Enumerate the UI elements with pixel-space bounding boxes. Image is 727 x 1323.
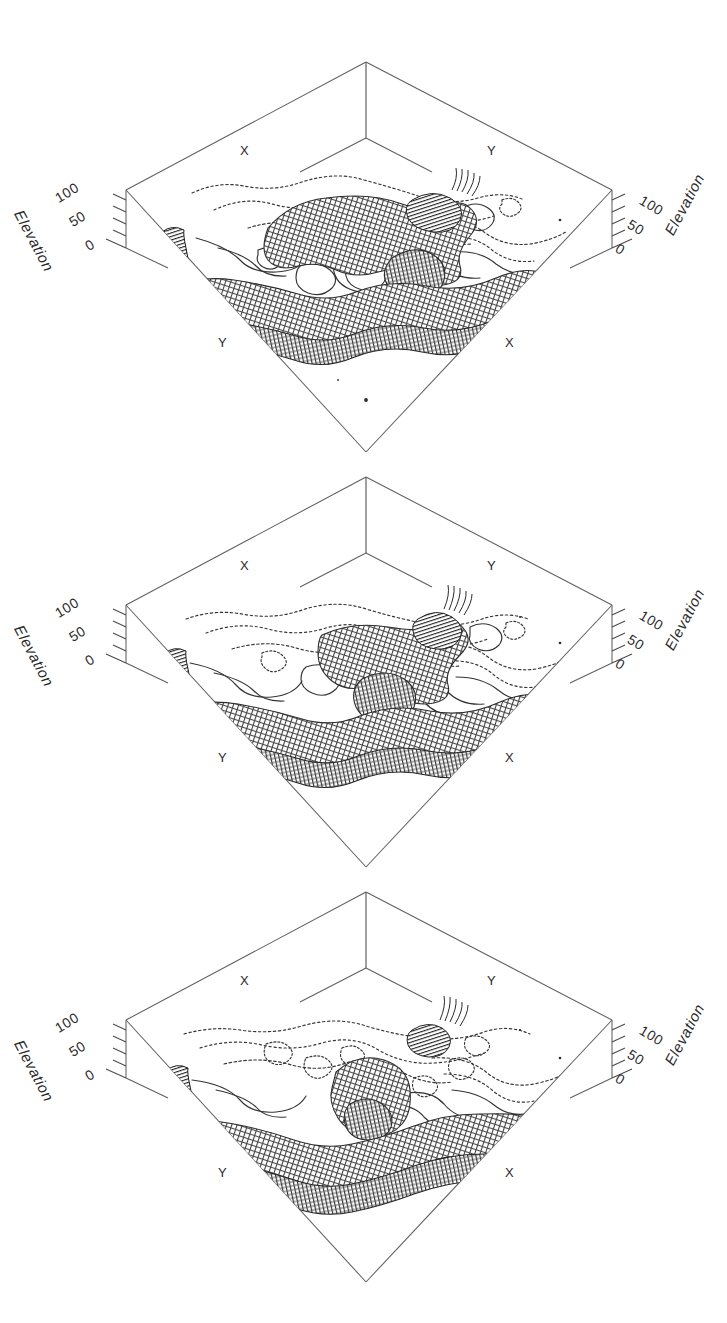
plot-panel-3: X Y Y X 100 50 0 Elevation 100 50 0 Elev… [0,882,727,1312]
plot-panel-1: X Y Y X 100 50 0 Elevation 100 50 0 Elev… [0,52,727,482]
axis-label-bottom-right: X [505,335,514,350]
plot-panel-2: X Y Y X 100 50 0 Elevation 100 50 0 Elev… [0,467,727,897]
axis-label-top-left: X [240,558,249,573]
axis-label-bottom-left: Y [218,335,227,350]
panel-2-graphic [0,467,727,897]
axis-label-top-left: X [240,143,249,158]
axis-label-top-left: X [240,973,249,988]
figure-3d-surface-panels: X Y Y X 100 50 0 Elevation 100 50 0 Elev… [0,0,727,1323]
axis-label-bottom-left: Y [218,750,227,765]
elevation-axis-left-ticks [106,1024,126,1078]
stray-specks [519,616,561,644]
axis-label-bottom-right: X [505,750,514,765]
axis-label-top-right: Y [487,973,496,988]
axis-label-top-right: Y [487,143,496,158]
axis-label-top-right: Y [487,558,496,573]
left-escarpment [154,227,189,326]
axis-label-bottom-right: X [505,1165,514,1180]
elevation-axis-left-ticks [106,194,126,248]
left-escarpment [158,1066,193,1164]
axis-label-bottom-left: Y [218,1165,227,1180]
elevation-axis-left-ticks [106,609,126,663]
central-massif [318,585,472,723]
left-escarpment [156,649,191,747]
panel-3-graphic [0,882,727,1312]
panel-1-graphic [0,52,727,482]
